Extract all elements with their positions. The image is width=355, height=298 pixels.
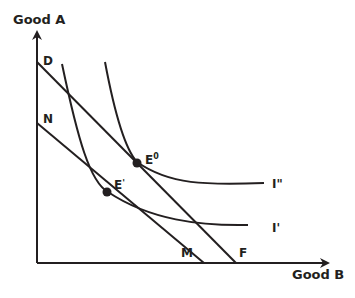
label-E-prime: E' bbox=[114, 178, 125, 192]
label-D: D bbox=[43, 54, 53, 68]
label-M: M bbox=[181, 246, 193, 260]
label-E0-main: E bbox=[145, 153, 153, 167]
label-E-prime-sup: ' bbox=[122, 178, 125, 188]
label-E0: E0 bbox=[145, 152, 159, 167]
indifference-curve-I-prime bbox=[62, 64, 248, 225]
equilibrium-point-E0 bbox=[133, 159, 142, 168]
label-F: F bbox=[239, 246, 247, 260]
label-I-prime: I' bbox=[272, 221, 280, 235]
indifference-curve-I-double-prime bbox=[105, 62, 264, 184]
label-E-prime-main: E bbox=[114, 178, 122, 192]
diagram-canvas: Good A Good B D N M F I" I' E0 E' bbox=[0, 0, 355, 298]
y-axis-label: Good A bbox=[13, 12, 65, 27]
label-N: N bbox=[43, 112, 53, 126]
label-I-double-prime: I" bbox=[272, 177, 283, 191]
label-E0-sup: 0 bbox=[153, 152, 159, 161]
budget-line-NM bbox=[37, 123, 204, 263]
equilibrium-point-E-prime bbox=[103, 188, 112, 197]
x-axis-label: Good B bbox=[292, 267, 344, 282]
